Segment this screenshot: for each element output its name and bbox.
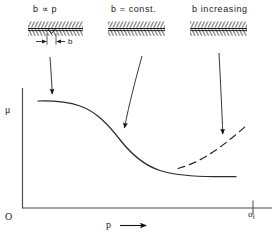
panel-increasing-diagram	[190, 22, 247, 36]
panel-label-increasing: b increasing	[192, 4, 248, 14]
hatch-band-upper	[28, 22, 83, 28]
hatch-band-upper	[190, 22, 247, 28]
panel-constant-diagram	[108, 22, 165, 36]
figure-canvas	[0, 0, 275, 240]
y-axis-label: μ	[5, 104, 10, 115]
arrow-panel3-to-branch	[219, 53, 223, 134]
x-axis-tick-label-sigma-f: σf	[248, 209, 255, 220]
x-axis-label: p	[106, 219, 111, 230]
origin-label: O	[5, 211, 12, 222]
arrow-panel1-to-plateau	[50, 57, 52, 94]
panel-label-proportional: b ∝ p	[33, 4, 57, 14]
sigma-subscript: f	[253, 213, 255, 220]
hatch-band-upper	[108, 22, 165, 28]
mu-branch-curve-dashed	[178, 125, 247, 169]
dimension-label-b: b	[68, 37, 72, 46]
panel-label-constant: b = const.	[111, 4, 156, 14]
arrow-panel2-to-descent	[125, 56, 143, 128]
panel-proportional-diagram	[28, 22, 83, 45]
figure-root: b ∝ p b = const. b increasing b μ O p σf	[0, 0, 275, 240]
mu-main-curve	[38, 101, 236, 177]
